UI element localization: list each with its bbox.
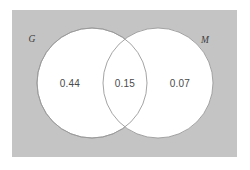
region-value-intersection: 0.15 bbox=[115, 78, 136, 89]
region-value-g-only: 0.44 bbox=[60, 78, 81, 89]
venn-diagram-figure: G M 0.44 0.15 0.07 bbox=[0, 0, 250, 170]
venn-diagram-canvas: G M 0.44 0.15 0.07 bbox=[0, 0, 250, 170]
region-value-m-only: 0.07 bbox=[170, 78, 191, 89]
set-label-g: G bbox=[29, 34, 36, 44]
set-label-m: M bbox=[200, 35, 210, 45]
